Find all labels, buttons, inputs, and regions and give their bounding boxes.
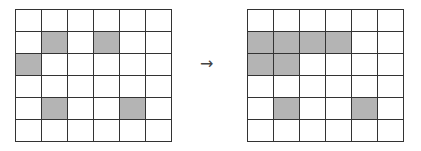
- output-cell-r1-c2: [300, 32, 326, 54]
- input-cell-r1-c0: [16, 32, 42, 54]
- input-cell-r3-c4: [120, 76, 146, 98]
- input-cell-r4-c1: [42, 98, 68, 120]
- output-cell-r1-c5: [378, 32, 404, 54]
- input-cell-r2-c5: [146, 54, 172, 76]
- output-cell-r1-c4: [352, 32, 378, 54]
- output-cell-r5-c1: [274, 120, 300, 142]
- output-cell-r5-c5: [378, 120, 404, 142]
- input-cell-r2-c4: [120, 54, 146, 76]
- input-cell-r1-c2: [68, 32, 94, 54]
- transform-arrow: →: [200, 54, 213, 74]
- output-cell-r2-c1: [274, 54, 300, 76]
- output-cell-r4-c5: [378, 98, 404, 120]
- input-cell-r1-c4: [120, 32, 146, 54]
- input-cell-r0-c4: [120, 10, 146, 32]
- input-cell-r4-c2: [68, 98, 94, 120]
- output-cell-r3-c5: [378, 76, 404, 98]
- input-cell-r2-c3: [94, 54, 120, 76]
- output-cell-r5-c2: [300, 120, 326, 142]
- output-cell-r3-c2: [300, 76, 326, 98]
- input-cell-r3-c1: [42, 76, 68, 98]
- output-cell-r2-c4: [352, 54, 378, 76]
- output-cell-r2-c3: [326, 54, 352, 76]
- output-cell-r4-c3: [326, 98, 352, 120]
- output-cell-r5-c0: [248, 120, 274, 142]
- input-cell-r4-c5: [146, 98, 172, 120]
- input-cell-r0-c5: [146, 10, 172, 32]
- output-cell-r5-c3: [326, 120, 352, 142]
- output-cell-r1-c1: [274, 32, 300, 54]
- output-grid: [247, 9, 404, 142]
- output-cell-r0-c2: [300, 10, 326, 32]
- output-cell-r0-c0: [248, 10, 274, 32]
- output-cell-r1-c3: [326, 32, 352, 54]
- input-cell-r4-c4: [120, 98, 146, 120]
- input-cell-r5-c5: [146, 120, 172, 142]
- input-cell-r0-c3: [94, 10, 120, 32]
- input-cell-r2-c1: [42, 54, 68, 76]
- input-cell-r5-c4: [120, 120, 146, 142]
- output-cell-r4-c4: [352, 98, 378, 120]
- input-cell-r3-c2: [68, 76, 94, 98]
- output-cell-r1-c0: [248, 32, 274, 54]
- output-cell-r0-c1: [274, 10, 300, 32]
- input-cell-r3-c0: [16, 76, 42, 98]
- input-cell-r3-c5: [146, 76, 172, 98]
- input-cell-r0-c0: [16, 10, 42, 32]
- output-cell-r4-c1: [274, 98, 300, 120]
- input-cell-r0-c2: [68, 10, 94, 32]
- input-cell-r5-c2: [68, 120, 94, 142]
- output-cell-r0-c5: [378, 10, 404, 32]
- output-cell-r3-c3: [326, 76, 352, 98]
- input-cell-r2-c2: [68, 54, 94, 76]
- input-cell-r5-c3: [94, 120, 120, 142]
- output-cell-r2-c5: [378, 54, 404, 76]
- input-cell-r2-c0: [16, 54, 42, 76]
- input-grid: [15, 9, 172, 142]
- output-cell-r0-c4: [352, 10, 378, 32]
- output-cell-r2-c0: [248, 54, 274, 76]
- input-cell-r1-c5: [146, 32, 172, 54]
- output-cell-r5-c4: [352, 120, 378, 142]
- input-cell-r4-c0: [16, 98, 42, 120]
- input-cell-r3-c3: [94, 76, 120, 98]
- input-cell-r0-c1: [42, 10, 68, 32]
- output-cell-r3-c1: [274, 76, 300, 98]
- output-cell-r0-c3: [326, 10, 352, 32]
- input-cell-r5-c1: [42, 120, 68, 142]
- input-cell-r4-c3: [94, 98, 120, 120]
- input-cell-r5-c0: [16, 120, 42, 142]
- output-cell-r2-c2: [300, 54, 326, 76]
- output-cell-r3-c0: [248, 76, 274, 98]
- output-cell-r3-c4: [352, 76, 378, 98]
- output-cell-r4-c2: [300, 98, 326, 120]
- input-cell-r1-c1: [42, 32, 68, 54]
- input-cell-r1-c3: [94, 32, 120, 54]
- output-cell-r4-c0: [248, 98, 274, 120]
